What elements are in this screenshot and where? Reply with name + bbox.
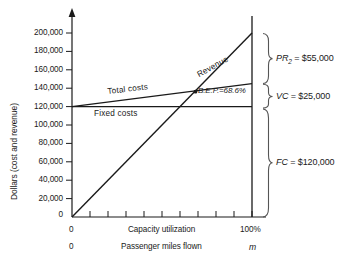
x-axis-title-secondary: Passenger miles flown xyxy=(121,243,202,251)
vc-symbol: VC xyxy=(276,91,288,101)
bep-marker xyxy=(194,90,198,94)
bracket-fc xyxy=(263,109,273,217)
x-primary-end-label: 100% xyxy=(240,226,261,234)
y-tick-label-180000: 180,000 xyxy=(8,47,63,55)
fixed-costs-label: Fixed costs xyxy=(94,110,138,118)
x-axis-ticks xyxy=(90,211,252,217)
bracket-pr2 xyxy=(263,34,273,84)
bep-label: B.E.P.=68.6% xyxy=(198,87,246,95)
x-primary-start-label: 0 xyxy=(69,226,74,234)
bracket-vc xyxy=(263,84,273,108)
break-even-chart: 200,000 180,000 160,000 140,000 120,000 … xyxy=(0,0,356,267)
fc-bracket-label: FC = $120,000 xyxy=(276,158,335,167)
pr2-subscript: 2 xyxy=(288,58,292,65)
pr2-bracket-label: PR2 = $55,000 xyxy=(276,54,334,65)
fc-symbol: FC xyxy=(276,157,288,167)
fc-value: = $120,000 xyxy=(290,157,334,167)
y-tick-label-140000: 140,000 xyxy=(8,84,63,92)
y-axis-ticks xyxy=(66,33,72,199)
y-tick-label-0: 0 xyxy=(8,211,63,219)
x-secondary-end-label: m xyxy=(249,243,256,252)
vc-bracket-label: VC = $25,000 xyxy=(276,92,330,101)
pr2-symbol: PR xyxy=(276,53,288,63)
pr2-value: = $55,000 xyxy=(294,53,333,63)
x-axis-title-primary: Capacity utilization xyxy=(128,226,195,234)
vc-value: = $25,000 xyxy=(291,91,330,101)
y-axis xyxy=(69,8,76,217)
y-axis-title: Dollars (cost and revenue) xyxy=(10,103,18,200)
x-secondary-start-label: 0 xyxy=(69,243,74,251)
y-tick-label-200000: 200,000 xyxy=(8,29,63,37)
y-tick-label-160000: 160,000 xyxy=(8,66,63,74)
